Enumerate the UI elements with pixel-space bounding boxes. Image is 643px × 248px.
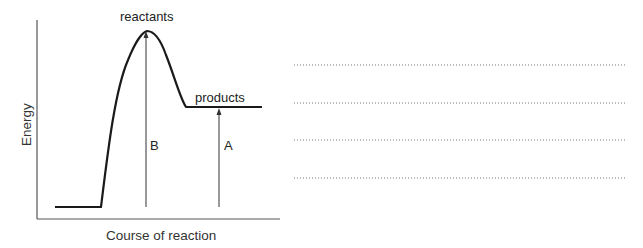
answer-lines <box>294 65 625 178</box>
x-axis-label: Course of reaction <box>106 228 216 243</box>
energy-diagram: reactants products B A Course of reactio… <box>0 0 643 248</box>
energy-curve <box>55 31 262 207</box>
arrow-b-label: B <box>150 138 159 153</box>
axes <box>37 20 280 219</box>
arrow-a-label: A <box>224 138 233 153</box>
reactants-label: reactants <box>120 9 174 24</box>
y-axis-label: Energy <box>19 103 34 146</box>
arrow-a <box>217 108 222 207</box>
arrow-b <box>144 31 149 207</box>
products-label: products <box>195 90 245 105</box>
